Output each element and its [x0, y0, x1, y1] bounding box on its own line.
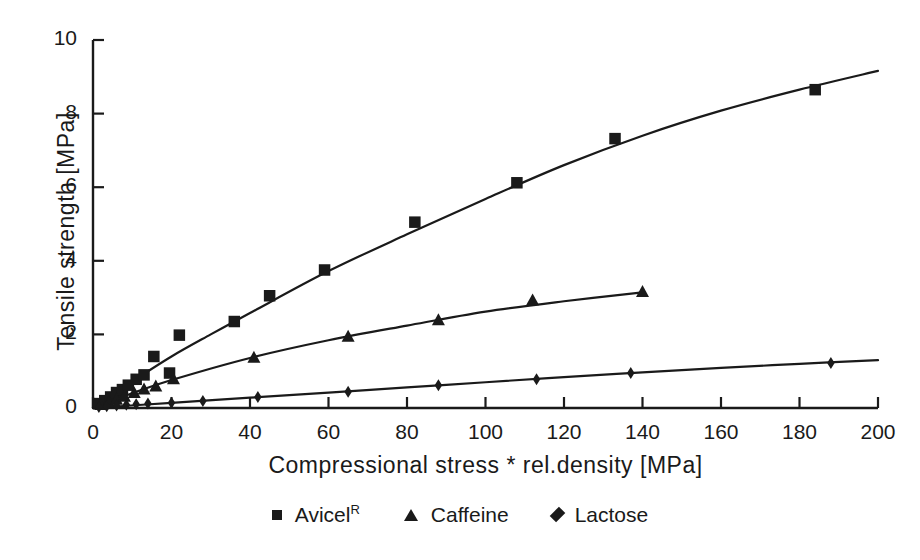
data-point-caffeine	[526, 293, 539, 305]
legend-entry-avicel[interactable]: AvicelR	[272, 502, 360, 527]
data-markers-group	[93, 84, 835, 413]
x-axis-tick-label: 80	[372, 420, 442, 444]
legend-label: AvicelR	[295, 502, 360, 527]
legend-entry-lactose[interactable]: Lactose	[553, 503, 649, 527]
data-point-lactose	[533, 373, 541, 385]
diamond-marker-icon	[549, 507, 565, 523]
x-axis-tick-label: 40	[215, 420, 285, 444]
triangle-marker-icon	[404, 509, 418, 521]
x-axis-tick-label: 60	[294, 420, 364, 444]
y-axis-tick-label: 10	[19, 26, 77, 50]
data-point-avicel	[148, 351, 160, 363]
x-axis-title: Compressional stress * rel.density [MPa]	[93, 452, 878, 479]
data-point-avicel	[511, 177, 523, 189]
data-point-avicel	[409, 216, 421, 228]
data-point-avicel	[809, 84, 821, 96]
data-point-avicel	[319, 264, 331, 276]
registered-superscript: R	[350, 502, 359, 517]
x-axis-tick-label: 0	[58, 420, 128, 444]
data-point-lactose	[827, 357, 835, 369]
chart-legend: AvicelRCaffeineLactose	[0, 502, 920, 527]
fit-curves-group	[93, 71, 878, 408]
data-point-lactose	[344, 386, 352, 398]
square-marker-icon	[272, 510, 282, 520]
y-axis-title: Tensile strength [MPa]	[53, 62, 80, 402]
x-axis-tick-label: 140	[608, 420, 678, 444]
data-point-avicel	[174, 329, 186, 341]
legend-label: Caffeine	[431, 503, 509, 527]
legend-entry-caffeine[interactable]: Caffeine	[404, 503, 509, 527]
chart-figure: 0246810 020406080100120140160180200 Tens…	[0, 0, 920, 560]
x-axis-tick-label: 20	[137, 420, 207, 444]
data-point-lactose	[627, 367, 635, 379]
x-axis-tick-label: 100	[451, 420, 521, 444]
x-axis-tick-label: 180	[765, 420, 835, 444]
x-axis-tick-label: 200	[843, 420, 913, 444]
fit-curve-avicel	[93, 71, 878, 408]
x-axis-tick-label: 120	[529, 420, 599, 444]
data-point-avicel	[264, 290, 276, 302]
data-point-lactose	[435, 379, 443, 391]
data-point-lactose	[254, 391, 262, 403]
data-point-lactose	[199, 395, 207, 407]
x-axis-tick-label: 160	[686, 420, 756, 444]
data-point-avicel	[609, 133, 621, 145]
legend-label: Lactose	[575, 503, 649, 527]
data-point-caffeine	[636, 285, 649, 297]
data-point-avicel	[229, 316, 241, 328]
axes-group	[93, 40, 878, 408]
data-point-avicel	[138, 369, 150, 381]
